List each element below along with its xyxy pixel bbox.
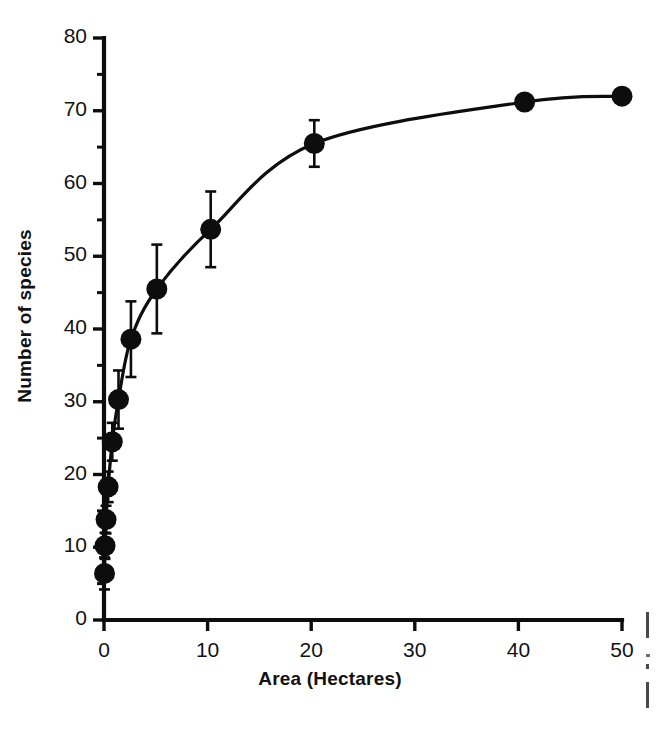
y-tick-label: 80: [9, 24, 87, 48]
y-tick-label: 50: [9, 242, 87, 266]
y-tick-label: 30: [9, 388, 87, 412]
y-tick-label: 20: [9, 461, 87, 485]
x-tick-label: 40: [478, 638, 558, 662]
y-tick-label: 70: [9, 97, 87, 121]
x-tick-label: 50: [582, 638, 660, 662]
x-tick-label: 0: [64, 638, 144, 662]
y-tick-label: 10: [9, 533, 87, 557]
x-tick-label: 20: [271, 638, 351, 662]
x-tick-label: 30: [375, 638, 455, 662]
species-area-chart: [0, 0, 660, 739]
y-tick-label: 0: [9, 606, 87, 630]
y-tick-label: 40: [9, 315, 87, 339]
x-tick-label: 10: [168, 638, 248, 662]
y-tick-label: 60: [9, 170, 87, 194]
